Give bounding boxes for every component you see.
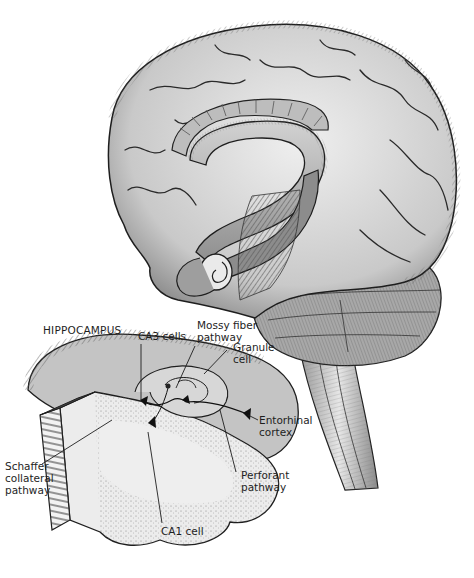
hippocampus-cross-section	[28, 334, 298, 545]
schaffer-collateral-pathway-label: Schaffer collateral pathway	[5, 460, 54, 496]
mossy-fiber-pathway-label: Mossy fiber pathway	[197, 319, 257, 343]
granule-cell-label: Granule cell	[233, 341, 275, 365]
hippocampus-title: HIPPOCAMPUS	[43, 324, 121, 336]
ca1-cell-label: CA1 cell	[161, 525, 204, 537]
ca3-cells-label: CA3 cells	[138, 330, 186, 342]
cerebral-cortex	[108, 24, 456, 318]
perforant-pathway-label: Perforant pathway	[241, 469, 289, 493]
brain-hippocampus-illustration	[0, 0, 474, 578]
entorhinal-cortex-label: Entorhinal cortex	[259, 414, 313, 438]
